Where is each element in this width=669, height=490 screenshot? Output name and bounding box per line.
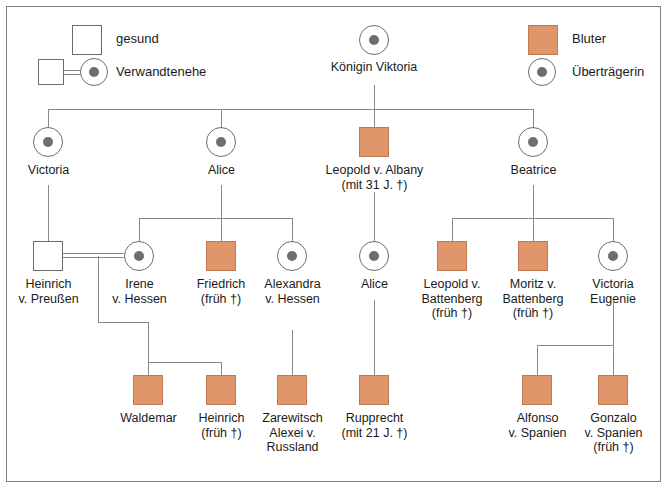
legend-consang-square-icon <box>38 59 64 85</box>
node-leopold-albany-symbol[interactable] <box>359 127 389 157</box>
node-irene-hessen-label: Irene v. Hessen <box>91 277 188 306</box>
node-alfonso-label: Alfonso v. Spanien <box>494 411 581 440</box>
line-to-irene <box>139 218 140 241</box>
line-to-friedrich <box>221 218 222 241</box>
node-heinrich-preussen-symbol[interactable] <box>33 241 63 271</box>
node-leopold-battenberg-symbol[interactable] <box>437 241 467 271</box>
node-heinrich-gen4-symbol[interactable] <box>206 375 236 405</box>
victoria-eugenie-carrier-dot-icon <box>608 251 618 261</box>
node-waldemar-symbol[interactable] <box>133 375 163 405</box>
koenigin-viktoria-carrier-dot-icon <box>369 35 379 45</box>
node-victoria-label: Victoria <box>0 163 97 178</box>
node-gonzalo-label: Gonzalo v. Spanien <box>570 411 657 440</box>
sibship-bar-waldemar-heinrich <box>148 362 221 363</box>
line-viktoria-drop <box>374 85 375 109</box>
sibship-bar-gen2 <box>48 109 534 110</box>
beatrice-carrier-dot-icon <box>528 137 538 147</box>
node-alfonso-symbol[interactable] <box>522 375 552 405</box>
legend-label-gesund: gesund <box>116 31 159 46</box>
node-heinrich-preussen-label: Heinrich v. Preußen <box>0 277 97 306</box>
alice-gen2-carrier-dot-icon <box>216 137 226 147</box>
legend-healthy-square-icon <box>72 25 102 55</box>
line-to-alexandra <box>292 218 293 241</box>
alice-gen3-carrier-dot-icon <box>369 251 379 261</box>
node-gonzalo-symbol[interactable] <box>598 375 628 405</box>
node-moritz-battenberg-label: Moritz v. Battenberg <box>489 277 577 306</box>
node-moritz-battenberg-symbol[interactable] <box>518 241 548 271</box>
line-heinrich-irene-down <box>148 322 149 362</box>
legend-label-verwandtenehe: Verwandtenehe <box>116 64 206 79</box>
legend-label-uebertraegerin: Überträgerin <box>572 64 644 79</box>
line-to-leopold-albany <box>374 109 375 127</box>
line-to-alice2 <box>221 109 222 127</box>
line-to-victoria <box>48 109 49 127</box>
sibship-bar-alice2-children <box>139 218 292 219</box>
line-victoria-eugenie-drop <box>613 300 614 345</box>
legend-label-bluter: Bluter <box>572 31 606 46</box>
node-leopold-battenberg-label: Leopold v. Battenberg <box>408 277 496 306</box>
pedigree-chart: gesund Verwandtenehe Bluter Überträgerin… <box>0 0 669 490</box>
line-to-moritz-battenberg <box>533 218 534 241</box>
line-heinrich-irene-drop <box>98 256 99 322</box>
node-rupprecht-symbol[interactable] <box>359 375 389 405</box>
node-gonzalo-note: (früh †) <box>570 440 657 455</box>
victoria-carrier-dot-icon <box>43 137 53 147</box>
line-alice2-drop <box>221 185 222 218</box>
legend-affected-square-icon <box>528 25 558 55</box>
line-to-beatrice <box>533 109 534 127</box>
node-rupprecht-note: (mit 21 J. †) <box>322 426 427 441</box>
node-leopold-albany-note: (mit 31 J. †) <box>302 178 447 193</box>
line-heinrich-irene-jog <box>98 322 149 323</box>
legend-consang-dot-icon <box>89 67 99 77</box>
line-to-alfonso <box>537 345 538 375</box>
node-friedrich-symbol[interactable] <box>206 241 236 271</box>
line-to-heinrich-gen4 <box>221 362 222 375</box>
node-koenigin-viktoria-label: Königin Viktoria <box>294 60 454 75</box>
line-beatrice-drop <box>533 185 534 218</box>
node-leopold-battenberg-note: (früh †) <box>408 306 496 321</box>
irene-carrier-dot-icon <box>134 251 144 261</box>
marriage-line-consanguineous <box>63 253 124 258</box>
line-alexandra-to-alexei <box>292 330 293 375</box>
node-alexei-symbol[interactable] <box>277 375 307 405</box>
legend-carrier-dot-icon <box>537 67 547 77</box>
alexandra-carrier-dot-icon <box>287 251 297 261</box>
line-to-gonzalo <box>613 345 614 375</box>
node-leopold-albany-label: Leopold v. Albany <box>302 163 447 178</box>
node-alice-gen2-label: Alice <box>173 163 270 178</box>
node-rupprecht-label: Rupprecht <box>322 411 427 426</box>
sibship-bar-spanien <box>537 345 614 346</box>
line-leopold-to-alice3 <box>374 192 375 241</box>
line-to-leopold-battenberg <box>452 218 453 241</box>
line-to-waldemar <box>148 362 149 375</box>
line-victoria-to-heinrich <box>48 185 49 241</box>
line-alice3-to-rupprecht <box>374 300 375 375</box>
node-moritz-battenberg-note: (früh †) <box>489 306 577 321</box>
node-beatrice-label: Beatrice <box>485 163 582 178</box>
line-to-victoria-eugenie <box>613 218 614 241</box>
